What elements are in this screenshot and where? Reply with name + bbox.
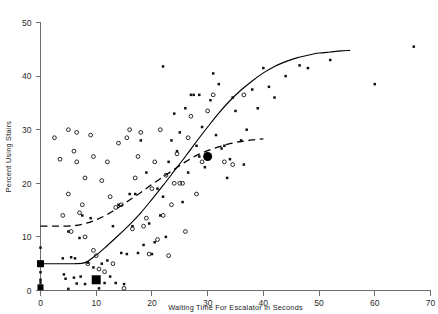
x-tick-label: 10: [91, 298, 101, 308]
data-point-square: [153, 241, 156, 244]
y-tick-label: 0: [27, 286, 32, 296]
data-point-square: [62, 257, 65, 260]
data-point-square: [70, 256, 73, 259]
data-point-square: [81, 214, 84, 217]
data-point-square: [413, 45, 416, 48]
data-point-square: [187, 171, 190, 174]
data-point-square: [257, 107, 260, 110]
chart-figure: 010203040506070 01020304050 Waiting Time…: [0, 0, 438, 314]
data-point-square: [89, 217, 92, 220]
data-point-square: [284, 75, 287, 78]
data-point-square: [92, 266, 95, 269]
data-point-square: [234, 110, 237, 113]
data-point-square: [162, 195, 165, 198]
data-point-square: [374, 83, 377, 86]
data-point-square: [229, 158, 232, 161]
data-point-square: [106, 259, 109, 262]
data-point-square: [156, 187, 159, 190]
x-tick-label: 0: [38, 298, 43, 308]
data-point-square: [128, 193, 131, 196]
x-tick-label: 70: [426, 298, 436, 308]
data-point-square: [79, 275, 82, 278]
data-point-square: [184, 107, 187, 110]
data-point-square: [215, 134, 218, 137]
data-point-square: [67, 288, 70, 291]
data-point-square: [226, 177, 229, 180]
data-point-square: [142, 244, 145, 247]
data-point-square: [218, 83, 221, 86]
data-point-square: [307, 67, 310, 70]
data-point-square: [162, 65, 165, 68]
data-point-square: [204, 166, 207, 169]
data-point-square: [145, 171, 148, 174]
data-point-square: [179, 131, 182, 134]
x-tick-label: 60: [370, 298, 380, 308]
data-point-square: [223, 145, 226, 148]
data-point-square: [112, 225, 115, 228]
data-point-square: [74, 257, 77, 260]
data-point-square: [84, 283, 87, 286]
y-tick-label: 30: [22, 125, 32, 135]
data-point-square: [212, 72, 215, 75]
data-point-square: [201, 126, 204, 128]
data-point-square: [298, 64, 301, 67]
data-point-square: [98, 287, 101, 290]
highlighted-point-square: [38, 284, 44, 290]
data-point-square: [39, 279, 42, 282]
data-point-square: [63, 273, 66, 276]
y-tick-label: 10: [22, 232, 32, 242]
data-point-square: [101, 262, 104, 265]
data-point-square: [243, 163, 246, 166]
data-point-square: [220, 147, 223, 150]
data-point-square: [140, 139, 143, 142]
data-point-square: [126, 253, 129, 256]
data-point-square: [181, 201, 184, 204]
data-point-square: [123, 283, 126, 286]
data-point-square: [39, 271, 42, 274]
data-point-square: [75, 282, 78, 285]
data-point-square: [137, 252, 140, 255]
data-point-square: [170, 139, 173, 142]
data-point-square: [268, 86, 271, 89]
data-point-square: [165, 236, 168, 239]
data-point-square: [78, 237, 81, 240]
highlighted-point-circle: [203, 152, 212, 161]
data-point-square: [273, 96, 276, 99]
data-point-square: [209, 99, 212, 102]
x-axis-title: Waiting Time For Escalator in Seconds: [168, 303, 303, 312]
data-point-square: [329, 59, 332, 62]
data-point-square: [148, 222, 151, 225]
y-axis-title: Percent Using Stairs: [4, 121, 13, 193]
data-point-square: [198, 94, 201, 97]
data-point-square: [195, 145, 198, 148]
data-point-square: [262, 67, 265, 70]
y-tick-label: 20: [22, 179, 32, 189]
data-point-square: [245, 128, 248, 131]
plot-background: [0, 0, 438, 314]
data-point-square: [39, 281, 42, 284]
data-point-square: [198, 155, 201, 158]
data-point-square: [39, 246, 42, 249]
data-point-square: [192, 94, 195, 97]
data-point-square: [167, 161, 170, 164]
data-point-square: [73, 276, 76, 279]
data-point-square: [114, 282, 117, 285]
data-point-square: [251, 88, 254, 91]
data-point-square: [190, 94, 193, 97]
y-tick-label: 40: [22, 71, 32, 81]
scatter-plot-svg: 010203040506070 01020304050 Waiting Time…: [0, 0, 438, 314]
data-point-square: [173, 112, 176, 115]
data-point-square: [109, 275, 112, 278]
y-tick-label: 50: [22, 18, 32, 28]
data-point-square: [64, 277, 67, 280]
x-tick-label: 20: [147, 298, 157, 308]
data-point-square: [120, 252, 123, 255]
highlighted-point-square: [92, 275, 101, 284]
data-point-square: [103, 282, 106, 285]
x-tick-label: 50: [314, 298, 324, 308]
